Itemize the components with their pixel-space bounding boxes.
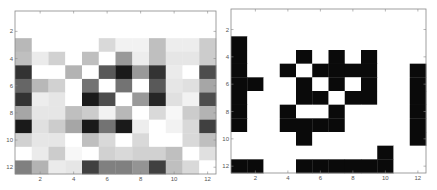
heatmap-cell	[65, 147, 82, 161]
heatmap-cell	[410, 36, 427, 50]
heatmap-cells	[231, 9, 426, 173]
heatmap-cell	[32, 106, 49, 120]
heatmap-cell	[116, 160, 133, 174]
heatmap-cell	[345, 50, 362, 64]
heatmap-cell	[345, 146, 362, 160]
heatmap-cell	[345, 118, 362, 132]
heatmap-cell	[15, 160, 32, 174]
heatmap-cell	[32, 79, 49, 93]
heatmap-cell	[49, 11, 66, 25]
heatmap-cell	[116, 120, 133, 134]
x-tick-label: 8	[139, 176, 143, 182]
heatmap-cell	[296, 77, 313, 91]
heatmap-cell	[377, 36, 394, 50]
heatmap-cell	[82, 147, 99, 161]
heatmap-cell	[149, 120, 166, 134]
heatmap-cell	[65, 93, 82, 107]
heatmap-cell	[329, 36, 346, 50]
heatmap-cell	[312, 132, 329, 146]
heatmap-cell	[183, 147, 200, 161]
heatmap-cell	[280, 64, 297, 78]
heatmap-cell	[264, 64, 281, 78]
heatmap-cell	[361, 146, 378, 160]
heatmap-cell	[116, 65, 133, 79]
heatmap-cell	[132, 147, 149, 161]
heatmap-cell	[49, 147, 66, 161]
heatmap-cell	[82, 25, 99, 39]
heatmap-cell	[296, 91, 313, 105]
heatmap-cell	[183, 52, 200, 66]
heatmap-cell	[280, 146, 297, 160]
heatmap-cell	[116, 106, 133, 120]
heatmap-cell	[183, 25, 200, 39]
heatmap-cell	[149, 147, 166, 161]
heatmap-cell	[99, 38, 116, 52]
heatmap-cell	[183, 65, 200, 79]
heatmap-cell	[361, 118, 378, 132]
heatmap-cell	[32, 25, 49, 39]
heatmap-cell	[247, 77, 264, 91]
heatmap-cell	[394, 77, 411, 91]
heatmap-cell	[99, 79, 116, 93]
heatmap-cell	[49, 65, 66, 79]
heatmap-cell	[166, 79, 183, 93]
heatmap-cell	[296, 23, 313, 37]
heatmap-cell	[32, 52, 49, 66]
heatmap-cell	[149, 133, 166, 147]
heatmap-cell	[49, 52, 66, 66]
heatmap-cell	[116, 38, 133, 52]
heatmap-cell	[394, 159, 411, 173]
heatmap-cell	[82, 160, 99, 174]
heatmap-cell	[264, 105, 281, 119]
heatmap-cell	[394, 132, 411, 146]
heatmap-cell	[149, 11, 166, 25]
heatmap-cell	[377, 146, 394, 160]
heatmap-cell	[82, 65, 99, 79]
heatmap-cell	[183, 120, 200, 134]
heatmap-cell	[329, 105, 346, 119]
y-tick-label: 2	[10, 28, 14, 34]
heatmap-cell	[296, 36, 313, 50]
heatmap-cell	[280, 132, 297, 146]
heatmap-cell	[361, 132, 378, 146]
heatmap-cell	[149, 65, 166, 79]
heatmap-cell	[264, 23, 281, 37]
heatmap-cell	[82, 11, 99, 25]
y-tick-label: 2	[226, 27, 230, 33]
heatmap-cell	[49, 106, 66, 120]
heatmap-cell	[32, 65, 49, 79]
heatmap-cell	[394, 9, 411, 23]
heatmap-cell	[132, 79, 149, 93]
heatmap-cell	[183, 38, 200, 52]
heatmap-cell	[82, 79, 99, 93]
heatmap-cell	[99, 65, 116, 79]
heatmap-cell	[15, 52, 32, 66]
heatmap-cell	[264, 91, 281, 105]
heatmap-cell	[264, 77, 281, 91]
heatmap-cell	[15, 147, 32, 161]
heatmap-cell	[82, 120, 99, 134]
y-tick-label: 10	[222, 136, 229, 142]
heatmap-cell	[247, 91, 264, 105]
heatmap-cell	[312, 118, 329, 132]
heatmap-cell	[149, 25, 166, 39]
heatmap-cell	[149, 93, 166, 107]
heatmap-cell	[247, 50, 264, 64]
heatmap-cell	[32, 93, 49, 107]
heatmap-cell	[377, 118, 394, 132]
heatmap-cell	[329, 118, 346, 132]
heatmap-cell	[247, 146, 264, 160]
heatmap-cell	[345, 77, 362, 91]
heatmap-cell	[49, 25, 66, 39]
binary-heatmap-panel: 2468101224681012	[222, 9, 426, 181]
heatmap-cell	[247, 105, 264, 119]
heatmap-cell	[116, 79, 133, 93]
heatmap-cell	[49, 38, 66, 52]
heatmap-cell	[49, 160, 66, 174]
heatmap-cell	[377, 105, 394, 119]
heatmap-cell	[264, 118, 281, 132]
heatmap-cell	[312, 64, 329, 78]
x-tick-label: 10	[171, 176, 178, 182]
heatmap-cell	[345, 36, 362, 50]
y-tick-label: 12	[6, 164, 13, 170]
